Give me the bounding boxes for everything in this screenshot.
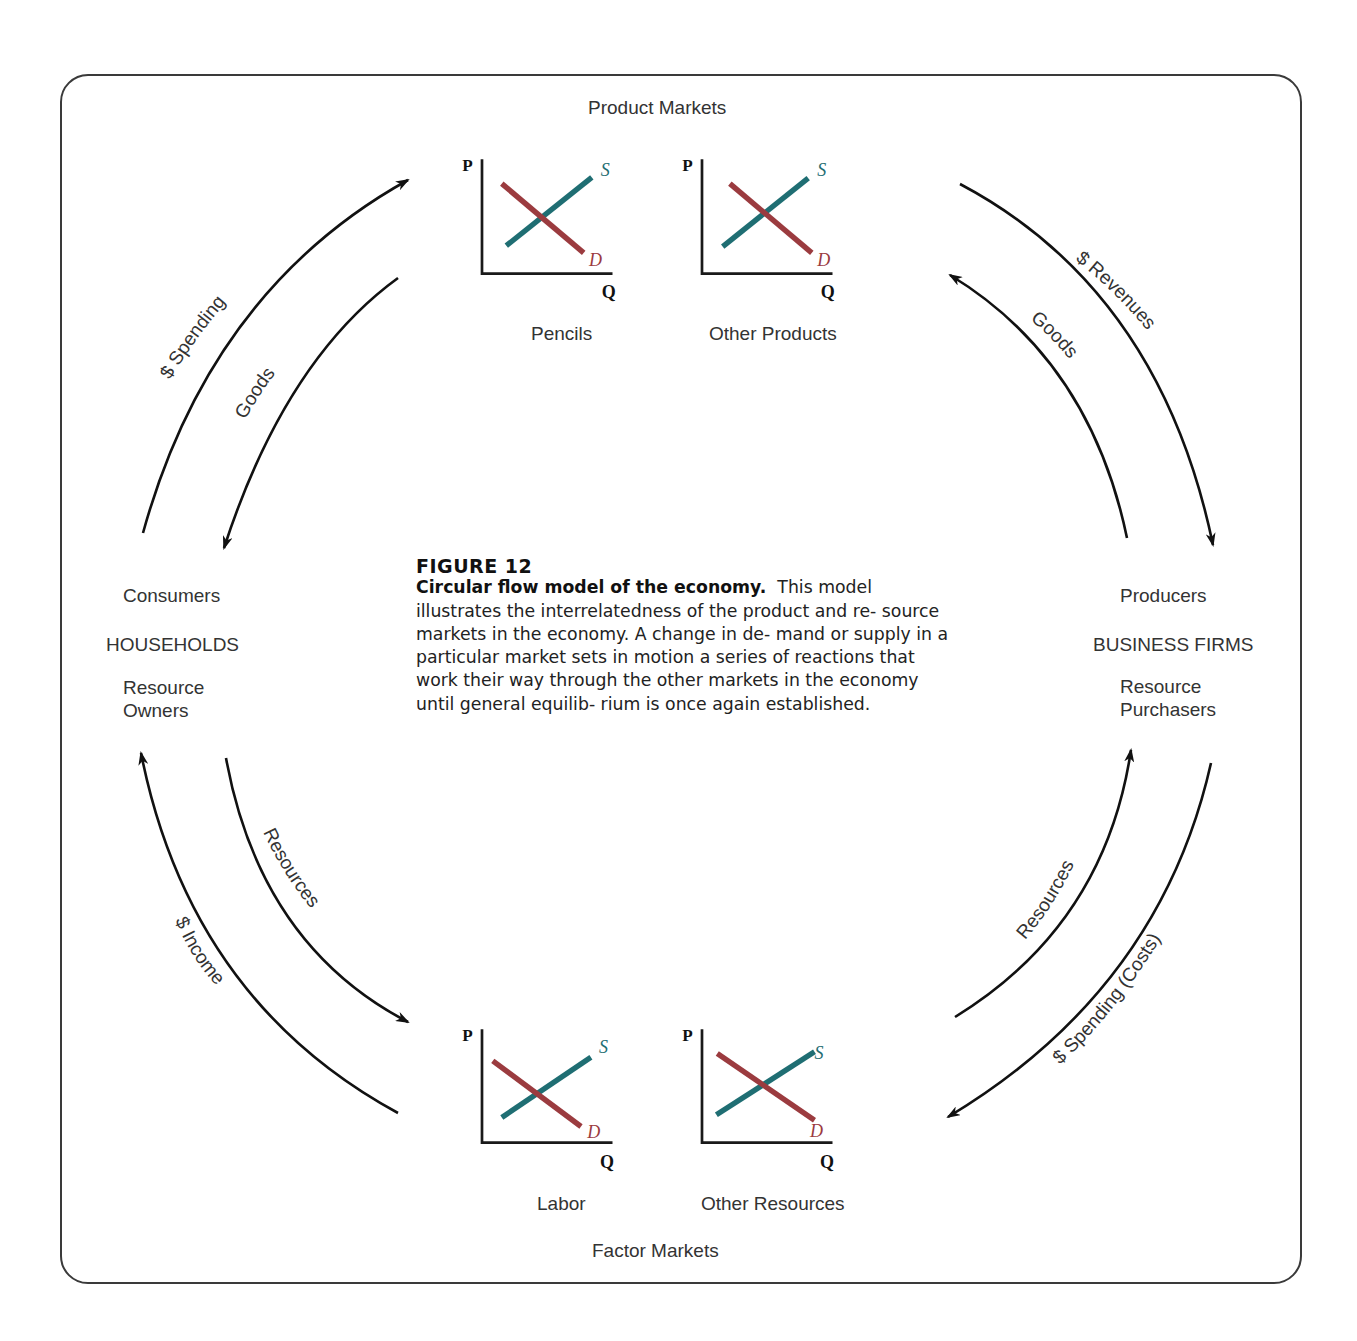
supply-curve <box>506 177 592 245</box>
svg-text:Q: Q <box>821 282 835 302</box>
svg-text:S: S <box>599 1037 608 1057</box>
svg-text:Q: Q <box>820 1152 834 1172</box>
svg-text:P: P <box>682 1026 692 1045</box>
flow-label-goods-right: Goods <box>1027 307 1082 362</box>
quantity-axis-label: Q <box>602 282 616 302</box>
other-products-title: Other Products <box>709 323 837 345</box>
revenues-arrow <box>960 184 1213 545</box>
svg-text:S: S <box>817 160 826 180</box>
svg-text:D: D <box>586 1122 600 1142</box>
pencils-title: Pencils <box>531 323 592 345</box>
pencils-chart: P S D Q <box>455 140 635 310</box>
flow-label-revenues: $ Revenues <box>1073 247 1161 334</box>
flow-label-resources-left: Resources <box>259 825 324 912</box>
supply-label: S <box>601 160 610 180</box>
labor-title: Labor <box>537 1193 586 1215</box>
flow-label-costs: $ Spending (Costs) <box>1048 929 1164 1068</box>
costs-spending-arrow <box>948 763 1211 1117</box>
svg-text:P: P <box>682 156 692 175</box>
other-resources-title: Other Resources <box>701 1193 845 1215</box>
other-products-chart: P S D Q <box>675 140 855 310</box>
svg-text:P: P <box>462 1026 472 1045</box>
svg-text:Q: Q <box>600 1152 614 1172</box>
flow-label-spending: $ Spending <box>155 291 229 382</box>
demand-label: D <box>588 250 602 270</box>
svg-text:D: D <box>816 250 830 270</box>
flow-label-goods-left: Goods <box>230 363 278 422</box>
price-axis-label: P <box>462 156 472 175</box>
labor-chart: P S D Q <box>455 1010 635 1180</box>
resources-to-firms-arrow <box>955 750 1131 1017</box>
other-resources-chart: P S D Q <box>675 1010 855 1180</box>
svg-text:S: S <box>815 1043 824 1063</box>
svg-text:D: D <box>809 1121 823 1141</box>
flow-label-resources-right: Resources <box>1012 856 1078 942</box>
